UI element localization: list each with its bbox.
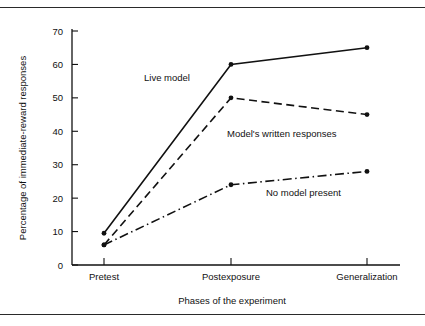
- y-tick-label: 0: [58, 260, 63, 271]
- y-tick-label: 10: [52, 226, 63, 237]
- x-tick-label: Postexposure: [202, 271, 260, 282]
- data-point-marker: [229, 182, 234, 187]
- figure-container: 010203040506070 PretestPostexposureGener…: [0, 0, 425, 326]
- series-label-model-written-responses: Model's written responses: [227, 128, 337, 139]
- x-tick-label: Pretest: [89, 271, 119, 282]
- series-markers: [102, 45, 370, 247]
- data-point-marker: [102, 231, 107, 236]
- series-label-live-model: Live model: [144, 72, 190, 83]
- series-line: [104, 171, 367, 245]
- data-point-marker: [102, 243, 107, 248]
- y-tick-label: 20: [52, 193, 63, 204]
- y-axis-ticks: 010203040506070: [52, 26, 78, 271]
- y-tick-label: 60: [52, 59, 63, 70]
- line-chart: 010203040506070 PretestPostexposureGener…: [0, 0, 425, 326]
- x-axis-title: Phases of the experiment: [178, 295, 286, 306]
- data-point-marker: [229, 95, 234, 100]
- x-tick-label: Generalization: [336, 271, 397, 282]
- data-point-marker: [229, 62, 234, 67]
- data-point-marker: [365, 112, 370, 117]
- y-tick-label: 50: [52, 92, 63, 103]
- y-tick-label: 30: [52, 159, 63, 170]
- y-axis-title: Percentage of immediate-reward responses: [17, 56, 28, 241]
- y-tick-label: 40: [52, 126, 63, 137]
- x-axis-ticks: PretestPostexposureGeneralization: [89, 258, 398, 282]
- y-tick-label: 70: [52, 26, 63, 37]
- series-label-no-model-present: No model present: [266, 187, 341, 198]
- data-point-marker: [365, 45, 370, 50]
- series-line: [104, 98, 367, 245]
- data-point-marker: [365, 169, 370, 174]
